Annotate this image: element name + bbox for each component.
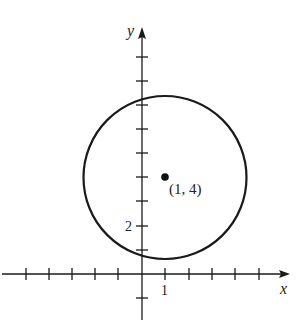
center-point-label: (1, 4): [169, 181, 202, 198]
x-axis: [2, 268, 290, 280]
y-axis: [136, 27, 148, 320]
y-tick-label-2: 2: [125, 219, 132, 234]
x-axis-label: x: [279, 280, 287, 297]
x-tick-label-1: 1: [161, 283, 168, 298]
center-point: [161, 173, 169, 181]
coordinate-plane: y x 1 2 (1, 4): [0, 0, 307, 335]
y-axis-label: y: [125, 22, 135, 40]
